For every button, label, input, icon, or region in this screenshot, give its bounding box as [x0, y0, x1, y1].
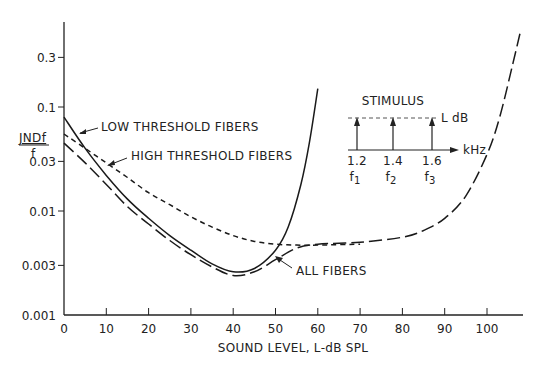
stimulus-frequency-label: 1.2	[347, 154, 367, 168]
stimulus-level-label: L dB	[441, 111, 469, 125]
axes: 01020304050607080901000.0010.0030.010.03…	[22, 22, 523, 336]
stimulus-title: STIMULUS	[362, 94, 425, 108]
x-tick-label: 0	[60, 322, 68, 336]
annotation-low-threshold: LOW THRESHOLD FIBERS	[101, 120, 259, 134]
stimulus-frequency-label: 1.4	[383, 154, 403, 168]
x-tick-label: 100	[476, 322, 499, 336]
x-tick-label: 40	[226, 322, 241, 336]
x-axis-label: SOUND LEVEL, L-dB SPL	[218, 341, 369, 355]
x-tick-label: 20	[141, 322, 156, 336]
y-tick-label: 0.1	[37, 101, 56, 115]
y-tick-label: 0.01	[29, 205, 56, 219]
annotation-high-threshold: HIGH THRESHOLD FIBERS	[131, 149, 292, 163]
annotation-high-threshold-arrowhead	[107, 160, 115, 166]
x-tick-label: 50	[268, 322, 283, 336]
x-tick-label: 10	[99, 322, 114, 336]
stimulus-axis-label: kHz	[463, 143, 486, 157]
y-axis-label-numerator: JNDf	[18, 131, 47, 145]
stimulus-frequency-name: f3	[424, 170, 435, 186]
y-axis-label-denominator: f	[31, 147, 36, 161]
y-tick-label: 0.001	[22, 309, 56, 323]
stimulus-axis-arrowhead	[450, 147, 459, 153]
x-tick-label: 60	[310, 322, 325, 336]
x-tick-label: 80	[395, 322, 410, 336]
x-tick-label: 90	[437, 322, 452, 336]
stimulus-frequency-label: 1.6	[422, 154, 442, 168]
chart: 01020304050607080901000.0010.0030.010.03…	[0, 0, 535, 369]
annotation-all-fibers: ALL FIBERS	[296, 264, 367, 278]
stimulus-frequency-name: f2	[385, 170, 396, 186]
stimulus-inset: STIMULUS L dB kHz 1.2f11.4f21.6f3	[347, 94, 486, 186]
x-tick-label: 70	[352, 322, 367, 336]
annotation-low-threshold-arrowhead	[79, 129, 86, 134]
x-tick-label: 30	[183, 322, 198, 336]
y-tick-label: 0.3	[37, 51, 56, 65]
y-tick-label: 0.003	[22, 259, 56, 273]
stimulus-frequency-name: f1	[349, 170, 360, 186]
stimulus-tone-arrowhead	[354, 117, 360, 126]
